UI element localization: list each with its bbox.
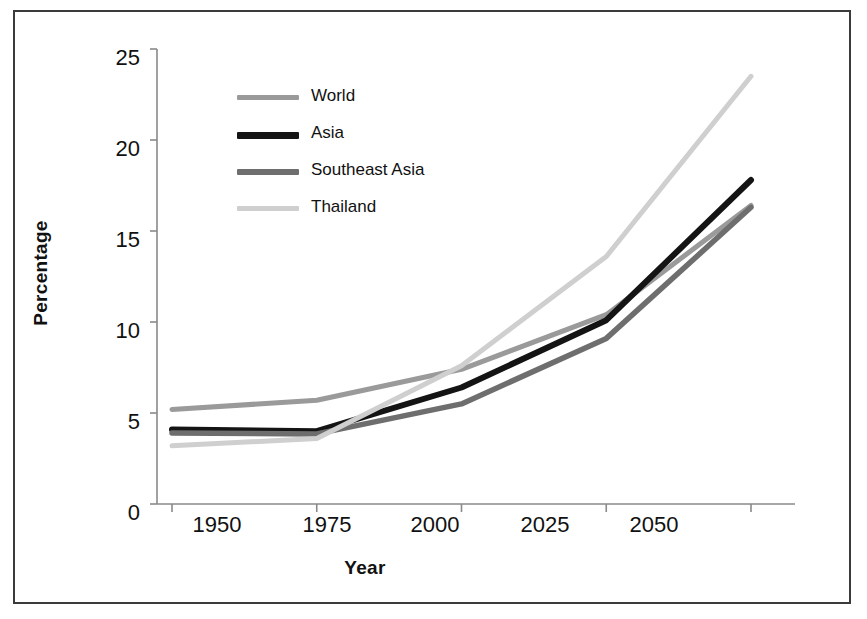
plot-surface bbox=[15, 12, 853, 606]
series-line-world bbox=[172, 206, 751, 410]
series-line-asia bbox=[172, 180, 751, 431]
line-chart: Percentage Year 25 20 15 10 5 0 1950 197… bbox=[15, 12, 853, 606]
series-lines bbox=[172, 76, 751, 446]
series-line-southeast-asia bbox=[172, 207, 751, 434]
figure-frame: Percentage Year 25 20 15 10 5 0 1950 197… bbox=[13, 10, 851, 604]
